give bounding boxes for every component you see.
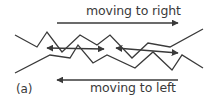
moving-right-label: moving to right (86, 5, 181, 18)
upper-zigzag-line (15, 29, 203, 58)
double-arrow-left-icon (47, 48, 104, 49)
panel-label: (a) (16, 83, 32, 95)
moving-left-label: moving to left (90, 82, 176, 95)
lower-zigzag-line (15, 45, 203, 73)
